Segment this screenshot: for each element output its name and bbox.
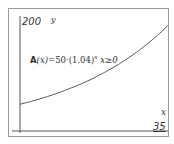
eq-body: =50·(1.04) xyxy=(48,55,94,65)
exponential-curve xyxy=(20,25,168,104)
eq-domain: x≥0 xyxy=(98,55,118,65)
x-axis-label: x xyxy=(161,107,166,117)
eq-function-name: A xyxy=(30,55,37,65)
eq-argument: (x) xyxy=(37,55,48,65)
x-max-tick-label: 35 xyxy=(153,121,166,132)
y-max-tick-label: 200 xyxy=(22,16,41,27)
y-axis-label: y xyxy=(51,15,56,24)
function-equation-annotation: A(x)=50·(1.04)x x≥0 xyxy=(30,53,118,65)
